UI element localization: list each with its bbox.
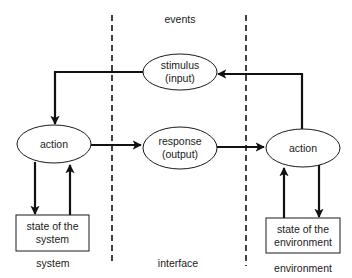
response-label: response [158,135,201,147]
environment-state-node: state of the environment [266,218,340,253]
system-action-node: action [17,125,91,163]
environment-label: environment [274,262,332,274]
system-state-sublabel: system [36,233,70,245]
edge-stimulus-to-system-action [55,72,143,124]
interaction-diagram: events system interface environment stim… [0,0,352,278]
response-sublabel: (output) [162,148,198,160]
events-label: events [165,13,196,25]
environment-state-label: state of the [277,223,329,235]
system-action-label: action [40,138,68,150]
stimulus-sublabel: (input) [165,72,195,84]
edge-env-action-to-stimulus [218,74,302,129]
system-label: system [36,257,70,269]
system-state-label: state of the [27,220,79,232]
environment-action-node: action [266,129,340,167]
interface-label: interface [158,257,198,269]
response-node: response (output) [143,127,217,169]
stimulus-node: stimulus (input) [143,54,217,90]
environment-state-sublabel: environment [274,236,332,248]
system-state-node: state of the system [16,215,89,251]
environment-action-label: action [289,142,317,154]
stimulus-label: stimulus [161,59,200,71]
